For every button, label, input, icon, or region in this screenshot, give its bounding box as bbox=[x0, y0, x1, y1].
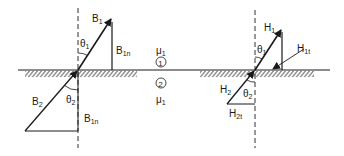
label-h2t: H2t bbox=[229, 108, 242, 120]
label-h1: H1 bbox=[264, 22, 275, 34]
hatch-left bbox=[25, 71, 137, 77]
label-b2: B2 bbox=[32, 96, 43, 108]
label-mu-top: μ1 bbox=[156, 45, 166, 57]
label-theta2-right: θ2 bbox=[243, 88, 253, 100]
label-h2: H2 bbox=[220, 84, 231, 96]
label-b1n-bottom: B1n bbox=[84, 113, 99, 125]
theta1-arc-left bbox=[78, 53, 88, 56]
hatch-right bbox=[200, 71, 314, 77]
label-h1t: H1t bbox=[297, 43, 310, 55]
label-mu-bottom: μ1 bbox=[156, 94, 166, 106]
label-theta1-left: θ1 bbox=[80, 38, 90, 50]
theta2-arc-right bbox=[247, 80, 255, 82]
label-b1n-top: B1n bbox=[116, 45, 131, 57]
region-2-label: 2 bbox=[158, 80, 163, 89]
label-theta2-left: θ2 bbox=[66, 94, 76, 106]
label-b1: B1 bbox=[92, 13, 103, 25]
theta1-arc-right bbox=[255, 57, 262, 59]
region-1-label: 1 bbox=[158, 59, 163, 68]
label-theta1-right: θ1 bbox=[257, 44, 267, 56]
theta2-arc-left bbox=[65, 86, 79, 91]
boundary-conditions-diagram: B1 B1n θ1 B2 θ2 B1n μ1 1 2 μ1 H1 H1t θ1 … bbox=[0, 0, 344, 156]
